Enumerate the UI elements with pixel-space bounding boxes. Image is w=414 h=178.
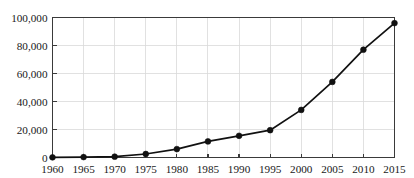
x-axis-tick-label: 1985: [197, 163, 220, 175]
x-axis-tick-label: 2000: [290, 163, 313, 175]
y-axis-tick-label: 40,000: [17, 96, 48, 108]
y-axis-tick-label: 20,000: [17, 124, 48, 136]
data-point-marker: [329, 79, 335, 85]
chart-container: 020,00040,00060,00080,000100,000 1960196…: [0, 0, 414, 178]
data-point-marker: [81, 154, 87, 160]
data-point-marker: [392, 20, 398, 26]
data-point-marker: [361, 47, 367, 53]
x-axis-tick-label: 2010: [352, 163, 375, 175]
x-axis-tick-label: 1980: [166, 163, 189, 175]
data-point-marker: [205, 139, 211, 145]
data-point-marker: [267, 127, 273, 133]
x-axis-tick-label: 1960: [41, 163, 64, 175]
chart-background: [0, 0, 414, 178]
y-axis-tick-label: 100,000: [11, 12, 48, 24]
x-axis-tick-label: 1970: [103, 163, 126, 175]
x-axis-tick-label: 1975: [135, 163, 158, 175]
x-axis-tick-label: 1990: [228, 163, 251, 175]
data-point-marker: [143, 151, 149, 157]
data-point-marker: [236, 133, 242, 139]
x-axis-tick-label: 1965: [72, 163, 95, 175]
line-chart: 020,00040,00060,00080,000100,000 1960196…: [0, 0, 414, 178]
x-axis-tick-label: 2015: [383, 163, 406, 175]
data-point-marker: [298, 107, 304, 113]
data-point-marker: [174, 146, 180, 152]
y-axis-tick-label: 80,000: [17, 40, 48, 52]
data-point-marker: [50, 154, 56, 160]
x-axis-tick-label: 1995: [259, 163, 282, 175]
y-axis-tick-label: 60,000: [17, 68, 48, 80]
x-axis-tick-label: 2005: [321, 163, 344, 175]
data-point-marker: [112, 154, 118, 160]
